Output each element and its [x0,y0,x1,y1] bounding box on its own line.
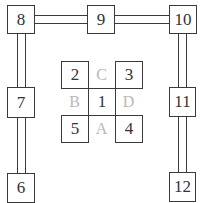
box-12-label: 12 [174,177,191,197]
letter-a: A [88,115,115,142]
box-7: 7 [7,87,35,118]
box-9: 9 [87,5,115,34]
box-5-label: 5 [71,119,80,139]
box-8: 8 [7,5,35,34]
box-11-label: 11 [174,92,190,112]
box-11: 11 [169,87,196,117]
box-2-label: 2 [71,65,80,85]
connector-8-9-line-b [35,23,87,24]
box-3: 3 [115,61,143,89]
box-6: 6 [7,173,35,203]
connector-11-12-line-a [178,117,179,172]
box-10-label: 10 [175,10,192,30]
box-7-label: 7 [17,93,26,113]
connector-10-11-line-a [178,34,179,87]
connector-11-12-line-b [186,117,187,172]
connector-8-7-line-a [17,34,18,87]
connector-10-11-line-b [186,34,187,87]
box-2: 2 [61,61,89,89]
connector-7-6-line-b [25,118,26,173]
connector-9-10-line-a [115,15,169,16]
letter-d: D [115,88,142,115]
box-6-label: 6 [17,178,26,198]
letter-b: B [61,88,88,115]
box-8-label: 8 [17,10,26,30]
box-9-label: 9 [97,10,106,30]
box-12: 12 [169,172,196,202]
connector-9-10-line-b [115,23,169,24]
box-3-label: 3 [125,65,134,85]
connector-8-7-line-b [25,34,26,87]
box-4: 4 [115,115,143,143]
letter-c: C [88,61,115,88]
box-4-label: 4 [125,119,134,139]
box-5: 5 [61,115,89,143]
box-1: 1 [88,88,116,116]
box-10: 10 [169,5,197,34]
box-1-label: 1 [98,92,107,112]
connector-8-9-line-a [35,15,87,16]
connector-7-6-line-a [17,118,18,173]
